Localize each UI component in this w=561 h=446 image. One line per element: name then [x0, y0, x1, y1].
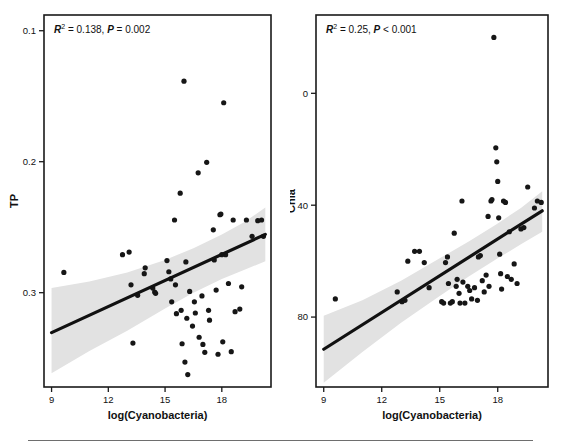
data-point — [495, 179, 500, 184]
data-point — [182, 360, 187, 365]
panel-left-tp: 0.30.20.19121518log(Cyanobacteria)TPR2 =… — [0, 0, 290, 446]
data-point — [496, 215, 501, 220]
data-point — [169, 299, 174, 304]
x-axis-title: log(Cyanobacteria) — [382, 409, 482, 421]
data-point — [232, 309, 237, 314]
data-point — [221, 100, 226, 105]
data-point — [184, 316, 189, 321]
data-point — [467, 288, 472, 293]
data-point — [457, 300, 462, 305]
y-tick-label: 0.3 — [23, 287, 36, 298]
data-point — [259, 217, 264, 222]
data-point — [446, 281, 451, 286]
data-point — [427, 285, 432, 290]
data-point — [226, 281, 231, 286]
data-point — [214, 287, 219, 292]
data-point — [193, 310, 198, 315]
data-point — [130, 341, 135, 346]
data-point — [499, 287, 504, 292]
data-point — [456, 291, 461, 296]
data-point — [489, 197, 494, 202]
data-point — [164, 258, 169, 263]
data-point — [218, 212, 223, 217]
data-point — [460, 280, 465, 285]
y-tick-label: 80 — [297, 311, 308, 322]
data-point — [497, 252, 502, 257]
data-point — [503, 200, 508, 205]
data-point — [220, 339, 225, 344]
data-point — [469, 296, 474, 301]
data-point — [422, 260, 427, 265]
x-tick-label: 12 — [376, 394, 387, 405]
data-point — [539, 200, 544, 205]
data-point — [173, 282, 178, 287]
confidence-band — [324, 191, 542, 383]
data-point — [485, 214, 490, 219]
x-tick-label: 18 — [217, 394, 228, 405]
data-point — [229, 349, 234, 354]
data-point — [459, 198, 464, 203]
data-point — [462, 300, 467, 305]
data-point — [61, 270, 66, 275]
y-tick-label: 40 — [297, 200, 308, 211]
data-point — [405, 259, 410, 264]
data-point — [532, 205, 537, 210]
data-point — [143, 265, 148, 270]
data-point — [166, 269, 171, 274]
data-point — [207, 318, 212, 323]
data-point — [237, 306, 242, 311]
panel-right-chla: 804009121518log(Cyanobacteria)ChlaR2 = 0… — [290, 0, 561, 446]
data-point — [486, 284, 491, 289]
data-point — [455, 277, 460, 282]
data-point — [231, 217, 236, 222]
data-point — [185, 372, 190, 377]
data-point — [172, 217, 177, 222]
data-point — [475, 298, 480, 303]
y-axis-title: Chla — [290, 188, 297, 213]
data-point — [441, 300, 446, 305]
data-point — [450, 299, 455, 304]
data-point — [478, 253, 483, 258]
data-point — [179, 341, 184, 346]
x-tick-label: 15 — [434, 394, 445, 405]
x-tick-label: 18 — [492, 394, 503, 405]
data-point — [491, 35, 496, 40]
data-point — [200, 342, 205, 347]
data-point — [211, 227, 216, 232]
data-point — [494, 159, 499, 164]
data-point — [183, 259, 188, 264]
x-axis-title: log(Cyanobacteria) — [108, 409, 208, 421]
data-point — [514, 281, 519, 286]
data-point — [239, 284, 244, 289]
data-point — [178, 191, 183, 196]
data-point — [395, 289, 400, 294]
data-point — [445, 254, 450, 259]
confidence-band — [52, 208, 266, 374]
data-point — [190, 323, 195, 328]
data-point — [482, 289, 487, 294]
panel-left-svg: 0.30.20.19121518log(Cyanobacteria)TPR2 =… — [0, 0, 290, 446]
y-axis-title: TP — [8, 194, 20, 208]
data-point — [417, 249, 422, 254]
y-tick-label: 0.2 — [23, 156, 36, 167]
data-point — [244, 217, 249, 222]
data-point — [498, 271, 503, 276]
data-point — [202, 350, 207, 355]
data-point — [153, 291, 158, 296]
x-tick-label: 15 — [160, 394, 171, 405]
data-point — [443, 260, 448, 265]
data-point — [472, 285, 477, 290]
data-point — [179, 308, 184, 313]
data-point — [454, 284, 459, 289]
data-point — [199, 293, 204, 298]
x-tick-label: 9 — [49, 394, 54, 405]
data-point — [181, 79, 186, 84]
data-point — [512, 261, 517, 266]
data-point — [412, 249, 417, 254]
stats-annotation: R2 = 0.25, P < 0.001 — [326, 23, 417, 35]
data-point — [215, 352, 220, 357]
stats-annotation: R2 = 0.138, P = 0.002 — [54, 23, 151, 35]
data-point — [452, 231, 457, 236]
data-point — [493, 145, 498, 150]
panel-right-svg: 804009121518log(Cyanobacteria)ChlaR2 = 0… — [290, 0, 561, 446]
